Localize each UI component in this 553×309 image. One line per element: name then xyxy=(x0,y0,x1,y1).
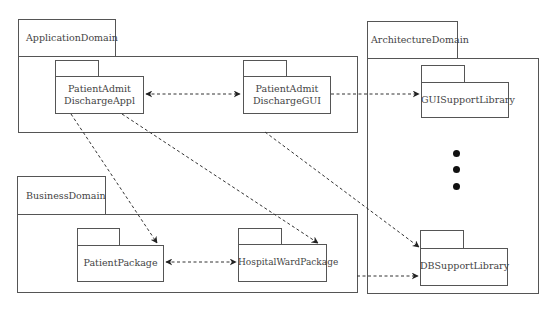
dependency-arrows xyxy=(0,0,553,309)
dep-pada-hwp xyxy=(122,114,318,243)
dep-padg-db xyxy=(265,132,419,247)
dep-pada-pp xyxy=(71,114,157,243)
